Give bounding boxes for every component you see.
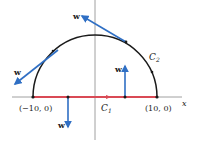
curve-label-c1: C1: [101, 103, 112, 114]
point-neg10: [31, 95, 34, 98]
vector-label-left: w: [13, 67, 22, 77]
c2-direction-dot-icon: [52, 50, 55, 53]
vector-base-down: [67, 96, 70, 99]
point-label-pos10: (10, 0): [145, 104, 172, 113]
vector-label-top: w: [72, 11, 81, 21]
curve-label-c2: C2: [149, 52, 160, 63]
vector-top-tangent-arrow-icon: [82, 16, 126, 42]
x-axis-label: x: [182, 99, 187, 108]
point-pos10: [155, 95, 158, 98]
vector-label-down: w: [57, 120, 66, 130]
c2-direction-dot-icon: [151, 71, 154, 74]
point-label-neg10: (−10, 0): [19, 104, 52, 113]
vector-left-tangent-arrow-icon: [15, 50, 58, 84]
vector-base-up: [124, 96, 127, 99]
vector-label-up: w: [114, 64, 123, 74]
vector-field-diagram: w w w w (−10, 0) (10, 0) C1 C2 x: [0, 0, 197, 149]
tangent-point-top: [125, 41, 128, 44]
